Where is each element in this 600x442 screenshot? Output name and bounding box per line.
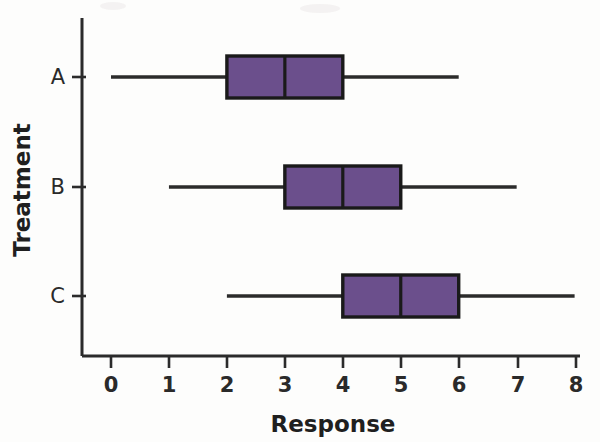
y-tick-label-a: A [51,65,66,89]
y-tick-label-b: B [51,175,65,199]
x-tick-label-5: 5 [394,373,409,397]
plot-area: A B C 0 1 2 3 4 5 6 7 8 [0,0,600,442]
y-axis-title: Treatment [9,123,35,257]
x-tick-marks [111,356,576,368]
x-tick-label-3: 3 [278,373,293,397]
boxplot-a [111,56,459,98]
y-tick-labels: A B C [50,65,65,308]
x-tick-labels: 0 1 2 3 4 5 6 7 8 [104,373,584,397]
y-tick-marks [72,77,86,296]
boxplot-c [227,275,575,317]
x-tick-label-1: 1 [162,373,177,397]
x-axis-title: Response [271,411,396,437]
x-tick-label-4: 4 [336,373,351,397]
x-tick-label-6: 6 [452,373,467,397]
y-tick-label-c: C [50,284,65,308]
boxplot-b [169,166,517,208]
boxplot-chart: A B C 0 1 2 3 4 5 6 7 8 [0,0,600,442]
x-tick-label-8: 8 [569,373,584,397]
x-tick-label-0: 0 [104,373,119,397]
x-tick-label-2: 2 [220,373,235,397]
x-tick-label-7: 7 [511,373,526,397]
box-series-layer [111,56,575,317]
